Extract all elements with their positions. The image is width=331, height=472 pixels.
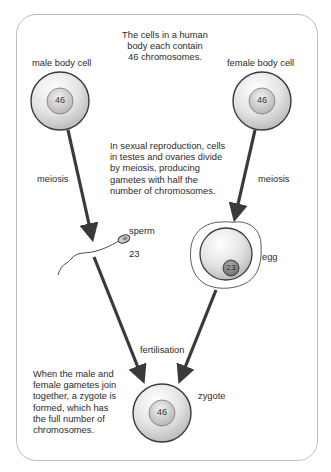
zygote-note-line: together, a zygote is: [33, 391, 116, 402]
meiosis-right-label: meiosis: [258, 174, 290, 185]
egg-cell: [190, 222, 261, 289]
meiosis-note-line: number of chromosomes.: [110, 186, 225, 197]
meiosis-note-line: in testes and ovaries divide: [110, 152, 225, 163]
zygote-note-line: female gametes join: [33, 380, 116, 391]
arrow-sperm-fertilisation: [94, 257, 141, 375]
meiosis-note-line: In sexual reproduction, cells: [110, 141, 225, 152]
zygote-label: zygote: [198, 391, 225, 402]
intro-note-line: 46 chromosomes.: [110, 52, 220, 63]
male-body-cell-label: male body cell: [32, 58, 91, 69]
sperm-chromosome-count: 23: [129, 248, 140, 259]
zygote-note: When the male and female gametes join to…: [33, 369, 116, 436]
egg-chromosome-count: 23: [222, 263, 240, 272]
intro-note-line: body each contain: [110, 41, 220, 52]
female-body-cell-label: female body cell: [227, 58, 294, 69]
intro-note-line: The cells in a human: [110, 30, 220, 41]
sperm-cell: [58, 233, 131, 275]
intro-note: The cells in a human body each contain 4…: [110, 30, 220, 64]
zygote-chromosome-count: 46: [152, 407, 172, 417]
meiosis-left-label: meiosis: [37, 174, 69, 185]
fertilisation-label: fertilisation: [140, 345, 184, 356]
zygote-note-line: formed, which has: [33, 403, 116, 414]
meiosis-note-line: gametes with half the: [110, 175, 225, 186]
meiosis-note: In sexual reproduction, cells in testes …: [110, 141, 225, 197]
zygote-note-line: the full number of: [33, 414, 116, 425]
zygote-note-line: chromosomes.: [33, 425, 116, 436]
male-chromosome-count: 46: [50, 95, 70, 105]
arrow-egg-fertilisation: [182, 290, 216, 375]
egg-label: egg: [262, 252, 278, 263]
arrow-female-meiosis: [236, 130, 255, 213]
arrow-male-meiosis: [68, 130, 91, 233]
female-chromosome-count: 46: [252, 95, 272, 105]
sperm-label: sperm: [129, 226, 155, 237]
zygote-note-line: When the male and: [33, 369, 116, 380]
meiosis-note-line: by meiosis, producing: [110, 163, 225, 174]
